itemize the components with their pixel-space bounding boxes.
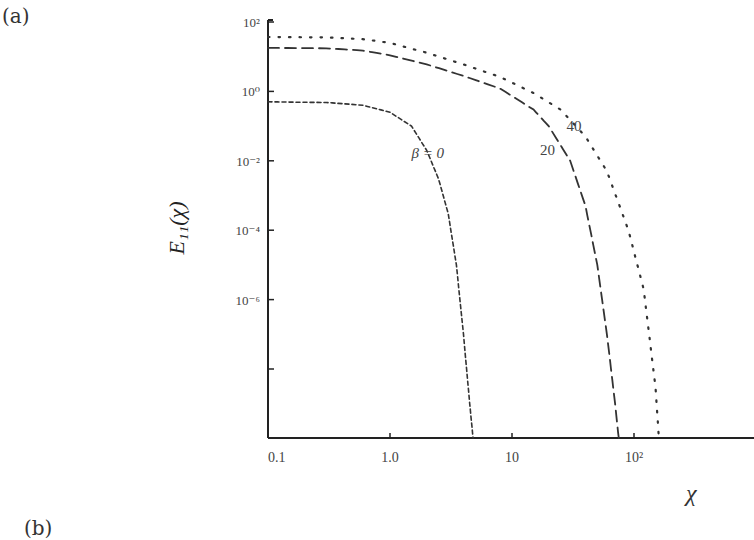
- y-tick-label: 10⁰: [242, 84, 260, 99]
- x-tick-label: 10²: [625, 450, 643, 465]
- y-tick-label: 10²: [243, 15, 260, 30]
- x-tick-label: 0.1: [268, 450, 286, 465]
- curve--40: [268, 37, 659, 438]
- y-tick-label: 10⁻⁴: [236, 223, 261, 238]
- curve-label: 20: [540, 142, 555, 158]
- x-tick-label: 10: [505, 450, 519, 465]
- curve-label: β = 0: [410, 145, 444, 161]
- chart-curves: [268, 37, 659, 438]
- curve--20: [268, 48, 619, 438]
- curve-label: 40: [567, 118, 582, 134]
- chart-annotations: β = 02040: [410, 118, 581, 161]
- y-tick-label: 10⁻⁶: [236, 293, 260, 308]
- chart-axes: 10²10⁰10⁻²10⁻⁴10⁻⁶0.11.01010²: [236, 15, 754, 465]
- y-tick-label: 10⁻²: [236, 154, 260, 169]
- x-tick-label: 1.0: [381, 450, 399, 465]
